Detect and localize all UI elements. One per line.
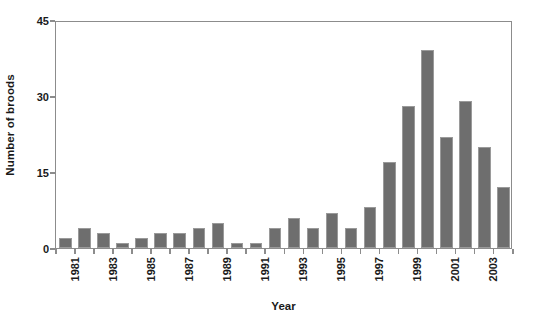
- plot-area: [55, 21, 512, 249]
- bar: [154, 233, 167, 248]
- y-axis-tick-label: 15: [3, 168, 49, 179]
- x-axis-tick: [512, 249, 514, 254]
- bar: [497, 187, 510, 248]
- x-axis-tick-label: 1991: [260, 257, 271, 297]
- x-axis-tick-label: 1989: [222, 257, 233, 297]
- bar: [307, 228, 320, 248]
- bar: [231, 243, 244, 248]
- bar: [288, 218, 301, 248]
- bar: [478, 147, 491, 248]
- y-axis-labels: 0153045: [0, 0, 49, 318]
- bar: [440, 137, 453, 248]
- x-axis-title: Year: [55, 300, 512, 313]
- bar-chart-figure: Number of broods 0153045 198119831985198…: [0, 0, 534, 318]
- bar: [269, 228, 282, 248]
- x-axis-tick-label: 1999: [412, 257, 423, 297]
- bar: [59, 238, 72, 248]
- bar: [250, 243, 263, 248]
- x-axis-tick-label: 1993: [298, 257, 309, 297]
- bar: [421, 50, 434, 248]
- x-axis-tick-label: 1983: [108, 257, 119, 297]
- bar: [459, 101, 472, 248]
- x-axis-tick-label: 1987: [184, 257, 195, 297]
- bar: [345, 228, 358, 248]
- y-axis-tick-label: 45: [3, 16, 49, 27]
- bar: [326, 213, 339, 248]
- y-axis-tick-label: 0: [3, 244, 49, 255]
- bar: [402, 106, 415, 248]
- bar: [97, 233, 110, 248]
- bar: [364, 207, 377, 248]
- bar: [116, 243, 129, 248]
- x-axis-labels: 1981198319851987198919911993199519971999…: [55, 254, 512, 300]
- x-axis-tick-label: 1997: [374, 257, 385, 297]
- x-axis-tick-label: 1995: [336, 257, 347, 297]
- bar: [135, 238, 148, 248]
- bar: [173, 233, 186, 248]
- bars-layer: [56, 22, 511, 248]
- x-axis-tick-label: 2003: [488, 257, 499, 297]
- x-axis-tick-label: 1985: [146, 257, 157, 297]
- bar: [78, 228, 91, 248]
- bar: [383, 162, 396, 248]
- bar: [193, 228, 206, 248]
- x-axis-tick-label: 1981: [70, 257, 81, 297]
- bar: [212, 223, 225, 248]
- x-axis-tick-label: 2001: [450, 257, 461, 297]
- y-axis-tick-label: 30: [3, 92, 49, 103]
